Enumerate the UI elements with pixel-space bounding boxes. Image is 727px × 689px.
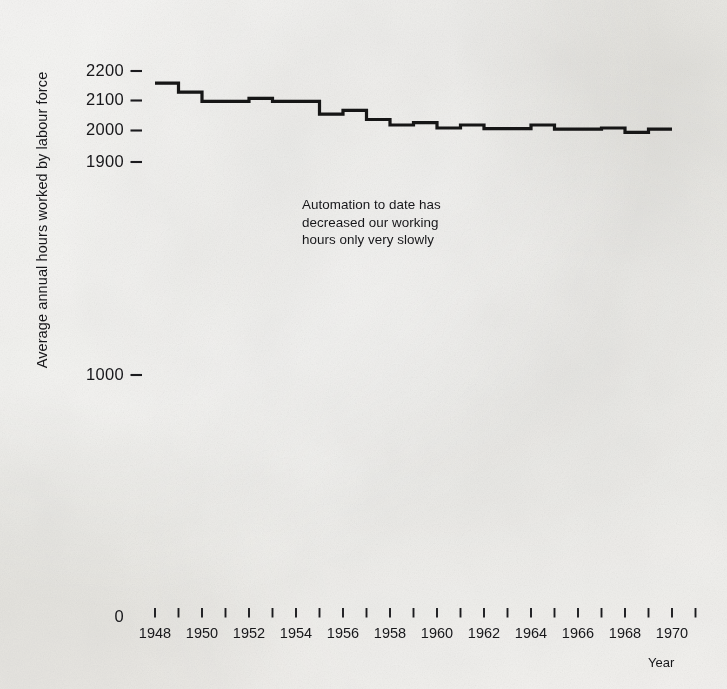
y-axis-ticks [131,71,143,375]
data-series-step-line [155,83,672,132]
plot-area [0,0,727,689]
x-axis-ticks [155,608,696,618]
step-chart: Average annual hours worked by labour fo… [0,0,727,689]
